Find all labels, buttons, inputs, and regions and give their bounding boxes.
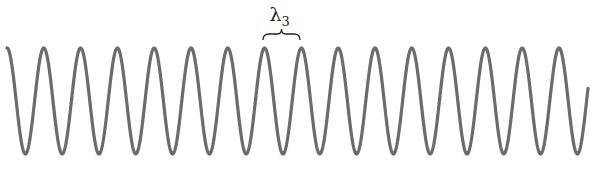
wavelength-label: λ3 bbox=[270, 3, 290, 29]
lambda-subscript: 3 bbox=[282, 14, 290, 29]
lambda-symbol: λ bbox=[270, 3, 282, 25]
sine-wave bbox=[7, 48, 588, 154]
wave-diagram bbox=[0, 0, 592, 170]
wavelength-brace bbox=[263, 29, 300, 40]
